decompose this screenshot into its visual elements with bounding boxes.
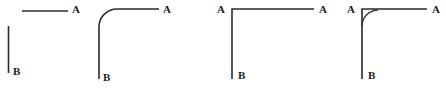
panel-1-label-b: B <box>13 66 20 77</box>
panel-2-geometry <box>99 9 159 79</box>
panel-2-label-a: A <box>163 4 171 15</box>
panel-2-rounded-corner-path <box>99 9 159 79</box>
panel-4-corner-fillet-arc <box>362 10 378 26</box>
panel-4-label-a-left: A <box>347 4 355 15</box>
panel-3-label-a-right: A <box>319 4 327 15</box>
panel-3-label-a-left: A <box>217 4 225 15</box>
figure-container: A B A B A A B A A B <box>0 0 446 97</box>
panel-4-label-b: B <box>368 70 375 81</box>
panel-1-geometry <box>9 11 69 73</box>
panel-4-label-a-right: A <box>432 4 440 15</box>
panel-2-label-b: B <box>103 72 110 83</box>
panel-3-label-b: B <box>238 70 245 81</box>
panel-1-label-a: A <box>72 4 80 15</box>
